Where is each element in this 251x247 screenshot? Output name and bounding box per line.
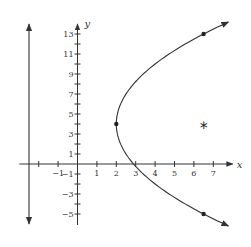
x-tick-label: 6	[191, 169, 196, 178]
y-tick-label: 7	[68, 90, 73, 99]
x-tick-label: 7	[211, 169, 216, 178]
parabola-curve	[116, 22, 228, 226]
y-tick-label: 1	[68, 150, 73, 159]
vertex-point	[114, 122, 118, 126]
y-tick-label: 9	[68, 70, 73, 79]
x-tick-label: 2	[114, 169, 119, 178]
y-axis-label: y	[84, 18, 91, 29]
focus-star: ∗	[199, 118, 209, 132]
y-tick-label: −3	[62, 190, 74, 199]
upper-point-point	[201, 32, 205, 36]
labels: −11234567−5−3−1135791113xy	[52, 18, 242, 219]
x-tick-label: 4	[153, 169, 158, 178]
y-tick-label: −1	[62, 170, 74, 179]
x-tick-label: 5	[172, 169, 177, 178]
y-tick-label: 5	[68, 110, 73, 119]
ticks	[39, 34, 214, 214]
y-tick-label: 11	[63, 50, 73, 59]
y-tick-label: −5	[62, 210, 74, 219]
parabola-plot: ∗ −11234567−5−3−1135791113xy	[0, 0, 251, 247]
x-tick-label: 3	[133, 169, 138, 178]
y-tick-label: 3	[68, 130, 73, 139]
x-axis-label: x	[237, 159, 243, 170]
lower-point-point	[201, 212, 205, 216]
y-tick-label: 13	[63, 30, 73, 39]
x-tick-label: 1	[94, 169, 99, 178]
